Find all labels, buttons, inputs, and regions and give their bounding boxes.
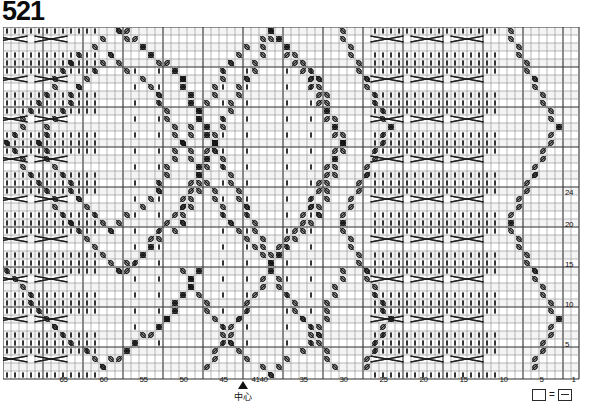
legend-equals-label: = — [549, 390, 555, 400]
column-number: 25 — [380, 375, 388, 384]
center-triangle-icon — [238, 381, 248, 389]
legend-purl-square-icon — [558, 389, 572, 401]
column-number: 60 — [100, 375, 108, 384]
column-number: 1 — [572, 375, 576, 384]
column-number: 15 — [460, 375, 468, 384]
column-number: 50 — [180, 375, 188, 384]
column-number: 35 — [300, 375, 308, 384]
row-number: 5 — [565, 340, 569, 349]
column-number: 20 — [420, 375, 428, 384]
chart-grid-wrapper — [3, 27, 581, 380]
chart-grid — [3, 27, 581, 380]
row-number: 24 — [565, 188, 573, 197]
page-title: 521 — [2, 0, 44, 27]
legend: = — [532, 389, 572, 401]
legend-empty-square-icon — [532, 389, 546, 401]
column-number: 30 — [340, 375, 348, 384]
row-number: 15 — [565, 260, 573, 269]
row-number: 10 — [565, 300, 573, 309]
center-marker-label: 中心 — [223, 390, 263, 403]
knitting-chart[interactable] — [3, 27, 581, 380]
center-marker: 中心 — [223, 381, 263, 403]
column-number-strip: 6560555045414035302520151051 — [3, 375, 581, 384]
column-number: 55 — [140, 375, 148, 384]
column-number: 5 — [540, 375, 544, 384]
column-number: 10 — [500, 375, 508, 384]
column-number: 65 — [60, 375, 68, 384]
row-number: 20 — [565, 220, 573, 229]
